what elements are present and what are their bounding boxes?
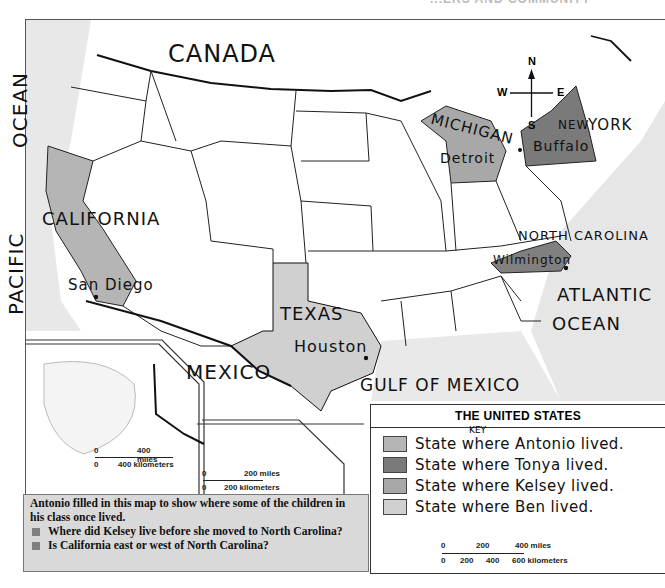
- swatch-antonio: [383, 436, 407, 452]
- alaska-scale-zero: 0: [94, 446, 98, 455]
- caption-intro: Antonio filled in this map to show where…: [30, 497, 362, 525]
- bullet-icon: [32, 528, 40, 536]
- compass-rose: N W E S: [497, 55, 567, 130]
- label-wilmington: Wilmington: [493, 253, 571, 267]
- label-pacific-ocean-1: OCEAN: [8, 72, 32, 148]
- compass-arrow-icon: [497, 55, 567, 130]
- key-item-ben: State where Ben lived.: [383, 496, 665, 517]
- alaska-scale-zero-km: 0: [94, 460, 98, 469]
- bullet-icon: [32, 542, 40, 550]
- label-san-diego: San Diego: [68, 276, 154, 294]
- label-houston: Houston: [294, 337, 368, 356]
- label-gulf-of-mexico: GULF OF MEXICO: [360, 375, 520, 395]
- question-2: Is California east or west of North Caro…: [30, 539, 362, 553]
- hawaii-scale-km: 200 kilometers: [224, 483, 324, 492]
- label-texas: TEXAS: [280, 303, 343, 324]
- label-buffalo: Buffalo: [533, 138, 589, 154]
- hawaii-scale-zero-km: 0: [202, 483, 206, 492]
- page-header-fragment: ...ERS AND COMMUNITY: [430, 0, 591, 6]
- label-atlantic: ATLANTIC: [557, 284, 652, 305]
- label-north-carolina: NORTH CAROLINA: [518, 228, 649, 243]
- hawaii-scale: 0 200 miles 0 200 kilometers: [202, 469, 206, 478]
- label-ocean: OCEAN: [552, 313, 621, 334]
- alaska-scale: 0 400 miles 0 400 kilometers: [94, 446, 98, 455]
- hawaii-scale-miles: 200 miles: [244, 469, 324, 478]
- question-1: Where did Kelsey live before she moved t…: [30, 525, 362, 539]
- swatch-kelsey: [383, 478, 407, 494]
- key-item-kelsey: State where Kelsey lived.: [383, 475, 665, 496]
- key-item-tonya: State where Tonya lived.: [383, 454, 665, 475]
- alaska-scale-km: 400 kilometers: [118, 460, 218, 469]
- key-title: THE UNITED STATES: [371, 405, 665, 428]
- label-california: CALIFORNIA: [42, 208, 160, 229]
- caption-box: Antonio filled in this map to show where…: [23, 494, 369, 572]
- map-key: THE UNITED STATES KEY State where Antoni…: [370, 404, 665, 574]
- label-mexico: MEXICO: [186, 360, 271, 384]
- swatch-ben: [383, 499, 407, 515]
- hawaii-scale-zero: 0: [202, 469, 206, 478]
- label-canada: CANADA: [168, 40, 276, 68]
- swatch-tonya: [383, 457, 407, 473]
- label-york: YORK: [588, 116, 632, 134]
- key-annotation: KEY: [469, 425, 486, 435]
- label-detroit: Detroit: [440, 150, 495, 166]
- label-pacific-ocean-2: PACIFIC: [4, 233, 28, 315]
- key-item-antonio: State where Antonio lived.: [383, 433, 665, 454]
